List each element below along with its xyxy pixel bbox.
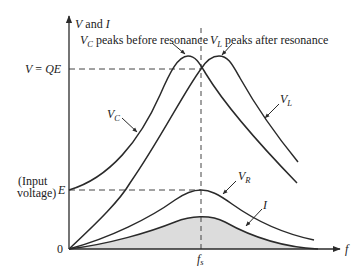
vc-curve — [69, 56, 297, 190]
vl-peak-annotation: VL peaks after resonance — [210, 33, 328, 49]
vl-label-leader — [265, 104, 279, 118]
vr-label-leader — [223, 181, 236, 194]
i-label-leader — [246, 209, 262, 226]
series-resonance-diagram: V and I VC peaks before resonance VL pea… — [0, 0, 364, 277]
vc-label-leader — [122, 118, 137, 132]
i-curve-label: I — [262, 198, 268, 212]
x-axis-label: f — [345, 242, 350, 256]
origin-label: 0 — [57, 242, 63, 256]
e-level-label: E — [57, 183, 66, 197]
vr-curve-label: VR — [238, 169, 251, 185]
qe-level-label: V = QE — [25, 62, 62, 76]
vc-peak-annotation: VC peaks before resonance — [80, 33, 208, 49]
resonance-frequency-label: fs — [197, 252, 204, 267]
vc-curve-label: VC — [107, 107, 120, 123]
y-axis-label: V and I — [75, 17, 111, 31]
input-voltage-label-line2: voltage) — [17, 186, 56, 200]
vl-curve-label: VL — [280, 92, 292, 108]
